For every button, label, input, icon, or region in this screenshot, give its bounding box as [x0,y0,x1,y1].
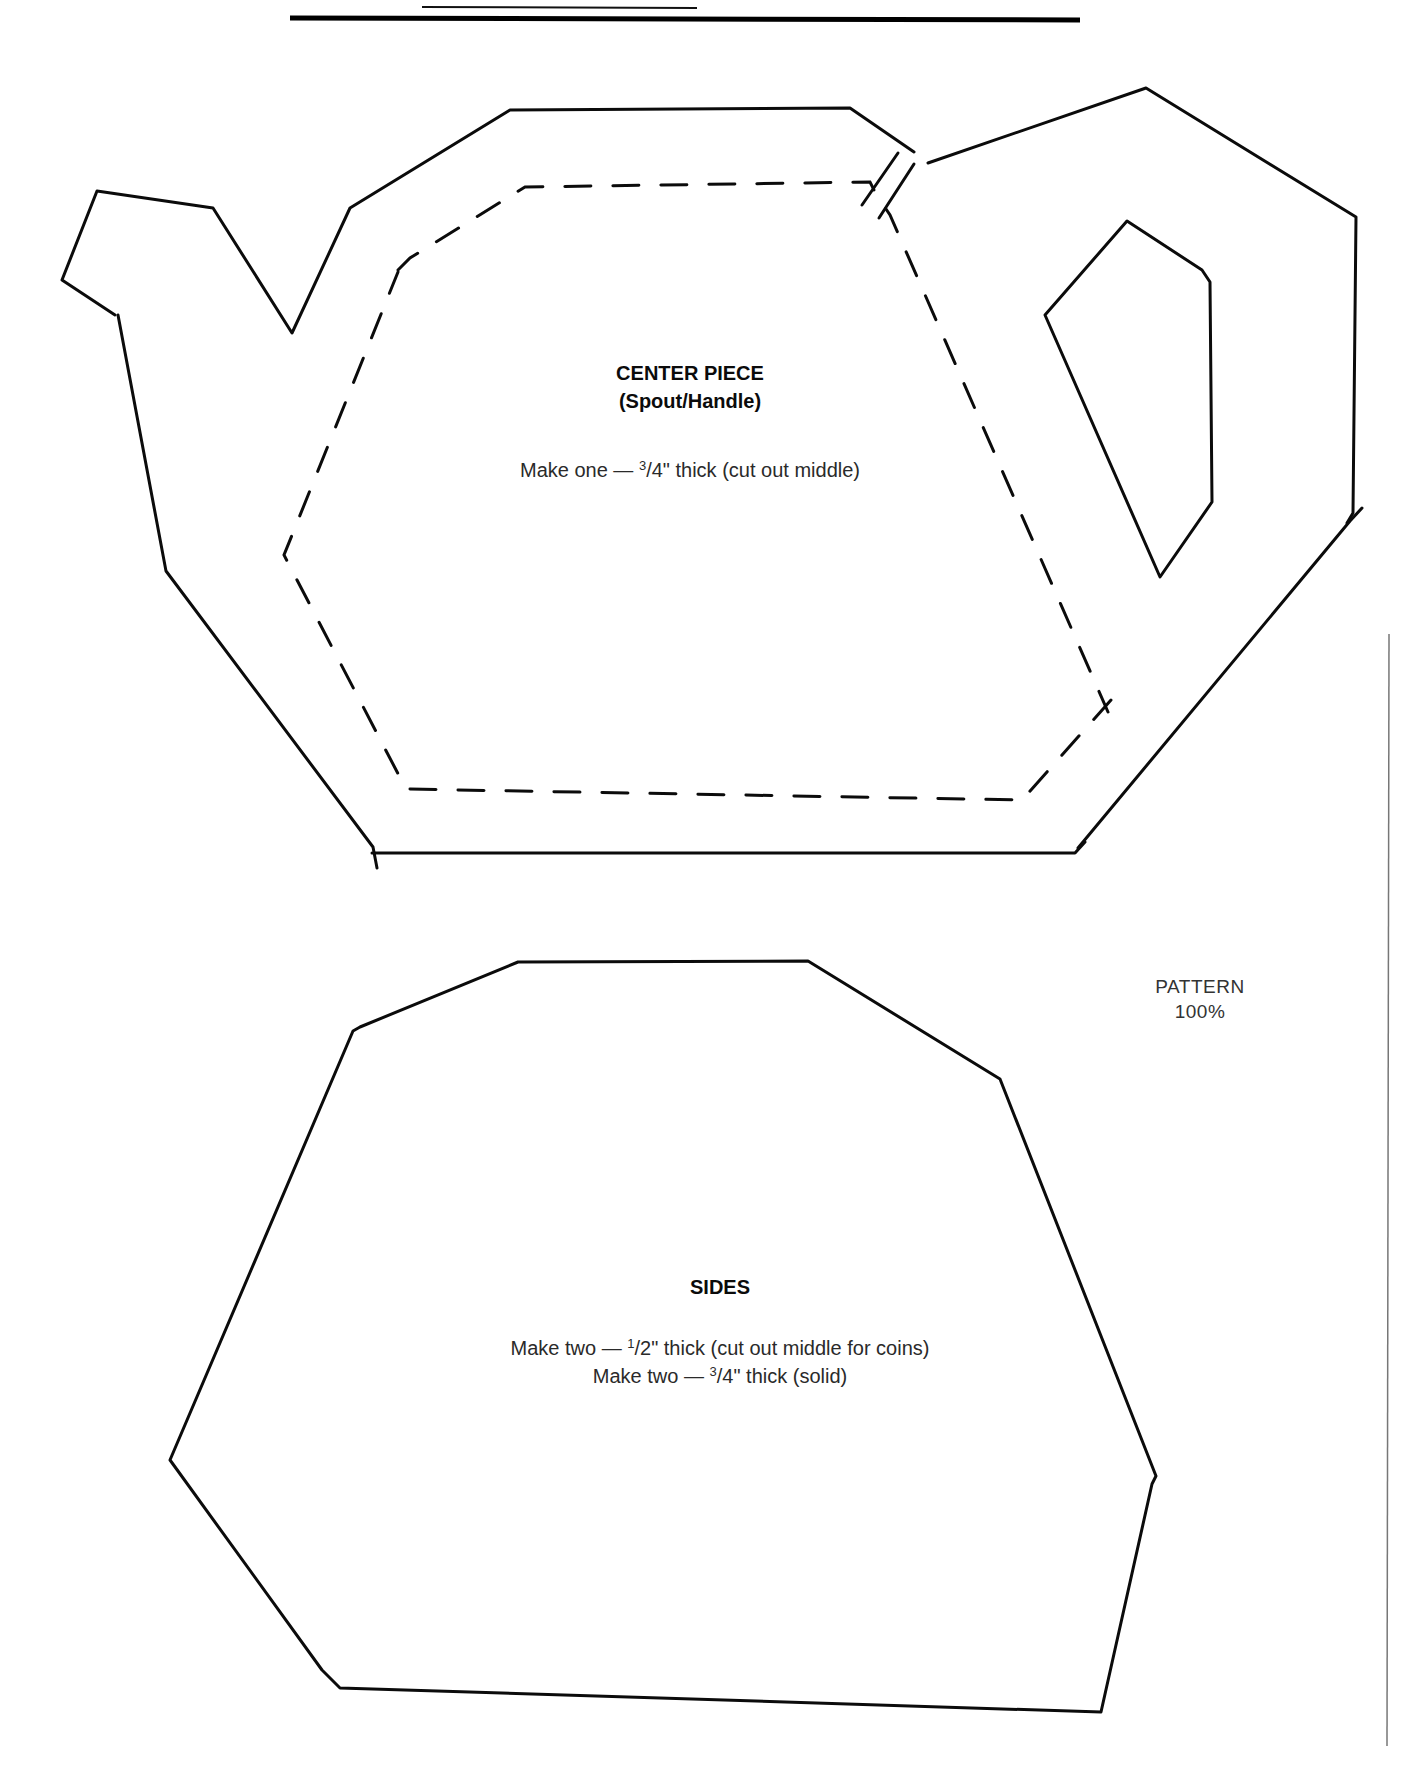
sides-title: SIDES [530,1273,910,1301]
header-thick-rule [290,18,1080,20]
center-piece-instruction-prefix: Make one — [520,459,639,481]
header-thin-rule [422,7,697,8]
pattern-label: PATTERN [1130,975,1270,999]
pattern-artwork [0,0,1414,1788]
center-piece-subtitle: (Spout/Handle) [450,387,930,415]
sides-instruction-line1: Make two — 1/2" thick (cut out middle fo… [380,1332,1060,1360]
sides-line2-prefix: Make two — [593,1365,710,1387]
center-piece-instruction: Make one — 3/4" thick (cut out middle) [400,454,980,482]
sides-line2-fraction-numerator: 3 [710,1364,717,1379]
teapot-inner-cut-dashed-line [284,182,1111,800]
sides-line2-rest: /4" thick (solid) [717,1365,847,1387]
pattern-scale: 100% [1130,1000,1270,1024]
right-margin-rule [1387,634,1389,1746]
sides-line1-rest: /2" thick (cut out middle for coins) [634,1337,929,1359]
sides-instruction-line2: Make two — 3/4" thick (solid) [380,1360,1060,1388]
center-piece-instruction-rest: /4" thick (cut out middle) [646,459,860,481]
center-piece-title: CENTER PIECE [450,359,930,387]
sides-line1-prefix: Make two — [511,1337,628,1359]
